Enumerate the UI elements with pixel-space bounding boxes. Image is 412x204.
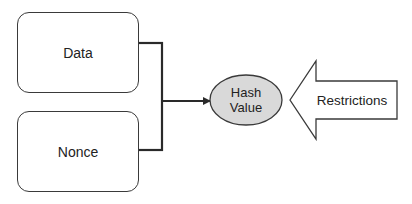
data-box: Data	[17, 12, 139, 93]
nonce-box: Nonce	[17, 111, 139, 192]
merge-bracket	[138, 42, 210, 151]
restrictions-label-wrap: Restrictions	[306, 81, 398, 119]
data-box-label: Data	[63, 45, 93, 61]
nonce-box-label: Nonce	[58, 144, 98, 160]
diagram-canvas: Data Nonce Hash Value Restrictions	[0, 0, 412, 204]
restrictions-label: Restrictions	[317, 93, 388, 108]
hash-value-label: Hash Value	[210, 75, 282, 125]
hash-value-label-line2: Value	[230, 100, 262, 115]
hash-value-label-line1: Hash	[231, 85, 261, 100]
